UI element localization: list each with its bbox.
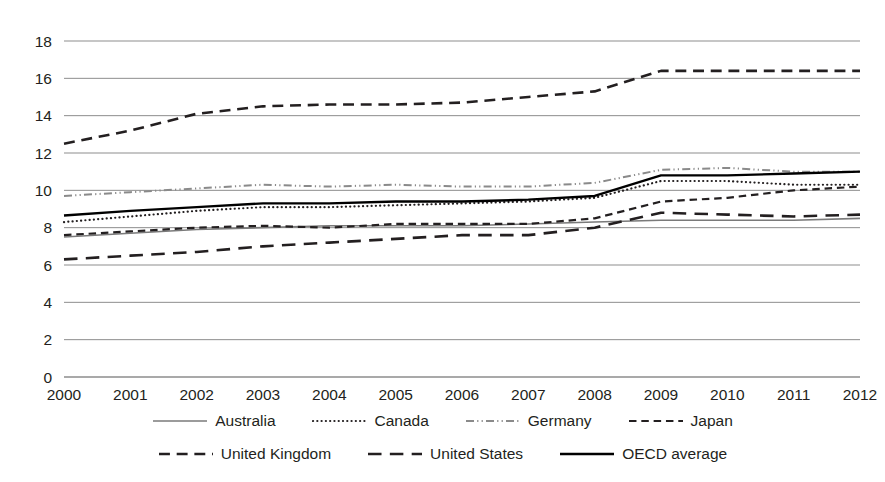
series-line-oecd-average <box>64 172 860 216</box>
y-tick-label: 6 <box>43 257 52 274</box>
legend-label: Japan <box>691 412 733 430</box>
legend-label: OECD average <box>622 445 727 463</box>
legend-item-oecd-average[interactable]: OECD average <box>559 445 727 463</box>
legend-label: United States <box>430 445 523 463</box>
y-axis-tick-labels: 024681012141618 <box>35 33 53 386</box>
x-tick-label: 2001 <box>113 386 147 400</box>
x-tick-label: 2007 <box>511 386 545 400</box>
y-tick-label: 12 <box>35 145 52 162</box>
x-axis-tick-labels: 2000200120022003200420052006200720082009… <box>47 386 877 400</box>
chart-svg: 024681012141618 200020012002200320042005… <box>0 0 885 400</box>
legend-line-sample <box>312 414 368 428</box>
x-tick-label: 2011 <box>777 386 810 400</box>
legend-row: AustraliaCanadaGermanyJapan <box>0 404 885 437</box>
x-tick-label: 2002 <box>179 386 213 400</box>
legend-line-sample <box>152 414 208 428</box>
legend-label: Canada <box>375 412 429 430</box>
chart-legend: AustraliaCanadaGermanyJapan United Kingd… <box>0 404 885 482</box>
legend-label: Australia <box>215 412 275 430</box>
legend-item-united-kingdom[interactable]: United Kingdom <box>158 445 331 463</box>
legend-line-sample <box>465 414 521 428</box>
legend-line-sample <box>158 447 214 461</box>
y-tick-label: 10 <box>35 182 53 199</box>
x-tick-label: 2000 <box>47 386 82 400</box>
x-tick-label: 2012 <box>843 386 877 400</box>
legend-item-australia[interactable]: Australia <box>152 412 275 430</box>
y-tick-label: 8 <box>43 219 52 236</box>
legend-item-united-states[interactable]: United States <box>367 445 523 463</box>
legend-line-sample <box>559 447 615 461</box>
legend-label: United Kingdom <box>221 445 331 463</box>
legend-item-japan[interactable]: Japan <box>628 412 733 430</box>
x-tick-label: 2006 <box>445 386 479 400</box>
legend-line-sample <box>367 447 423 461</box>
x-tick-label: 2010 <box>710 386 745 400</box>
x-tick-label: 2009 <box>644 386 678 400</box>
y-tick-label: 4 <box>43 294 52 311</box>
line-chart: 024681012141618 200020012002200320042005… <box>0 0 885 482</box>
legend-row: United KingdomUnited StatesOECD average <box>0 437 885 470</box>
y-tick-label: 2 <box>43 331 52 348</box>
y-tick-label: 16 <box>35 70 52 87</box>
x-tick-label: 2008 <box>577 386 611 400</box>
series-line-united-kingdom <box>64 71 860 144</box>
x-tick-label: 2005 <box>378 386 412 400</box>
legend-item-canada[interactable]: Canada <box>312 412 429 430</box>
y-tick-label: 14 <box>35 107 53 124</box>
y-tick-label: 0 <box>43 369 52 386</box>
data-series-group <box>64 71 860 260</box>
x-tick-label: 2003 <box>246 386 280 400</box>
legend-item-germany[interactable]: Germany <box>465 412 592 430</box>
plot-area: 024681012141618 200020012002200320042005… <box>0 0 885 400</box>
legend-label: Germany <box>528 412 592 430</box>
y-tick-label: 18 <box>35 33 52 50</box>
legend-line-sample <box>628 414 684 428</box>
x-tick-label: 2004 <box>312 386 347 400</box>
